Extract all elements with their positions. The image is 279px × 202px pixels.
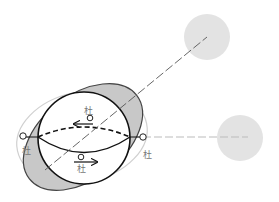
label-left: 杜 [22,145,31,156]
right-point-marker [140,134,146,140]
left-point-marker [20,133,26,139]
right-body [217,115,263,161]
tidal-bulge-diagram: 杜 杜 杜 杜 [0,0,279,202]
label-top: 杜 [84,105,93,116]
top-point-marker [87,115,93,121]
label-right: 杜 [143,149,152,160]
label-bottom: 杜 [77,163,86,174]
bottom-point-marker [78,154,84,160]
